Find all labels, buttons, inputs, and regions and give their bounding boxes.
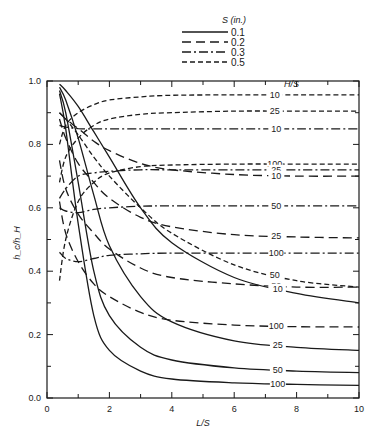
y-tick-label: 0.2 <box>28 330 41 340</box>
y-tick-label: 0.4 <box>28 266 41 276</box>
chart: S (in.)0.10.20.30.5 10255010010255010010… <box>0 0 379 436</box>
curve-label-HS10: 10 <box>271 124 281 134</box>
curve-label-HS50: 50 <box>273 365 283 375</box>
legend: S (in.)0.10.20.30.5 <box>182 15 246 68</box>
curve-S0.2-HS25 <box>60 119 360 238</box>
y-tick-label: 0.0 <box>28 393 41 403</box>
curve-S0.5-HS50 <box>60 113 360 287</box>
curve-label-HS50: 50 <box>270 270 280 280</box>
plot-curves <box>60 84 360 385</box>
curve-S0.2-HS100 <box>60 202 360 328</box>
x-tick-label: 8 <box>294 404 299 414</box>
y-tick-label: 0.6 <box>28 203 41 213</box>
y-tick-label: 1.0 <box>28 76 41 86</box>
curve-label-HS50: 50 <box>271 201 281 211</box>
curve-S0.5-HS100 <box>60 164 360 281</box>
curve-label-HS25: 25 <box>271 231 281 241</box>
curve-S0.3-HS50 <box>60 206 360 213</box>
curve-S0.5-HS10 <box>60 95 360 144</box>
curve-S0.3-HS10 <box>60 125 360 128</box>
y-tick-label: 0.8 <box>28 139 41 149</box>
curve-S0.1-HS25 <box>60 87 360 350</box>
legend-title: S (in.) <box>222 15 246 25</box>
x-tick-label: 6 <box>232 404 237 414</box>
x-tick-label: 0 <box>44 404 49 414</box>
axes: 02468100.00.20.40.60.81.0L/Sh_c/h_HH/S <box>12 76 364 428</box>
curve-label-HS25: 25 <box>270 106 280 116</box>
curve-S0.2-HS50 <box>60 160 360 287</box>
y-axis-title: h_c/h_H <box>12 226 22 260</box>
curve-label-HS100: 100 <box>270 379 285 389</box>
curve-label-HS100: 100 <box>269 248 284 258</box>
curve-label-HS10: 10 <box>273 284 283 294</box>
legend-label: 0.5 <box>231 57 245 68</box>
x-tick-label: 10 <box>354 404 364 414</box>
x-tick-label: 2 <box>107 404 112 414</box>
curve-label-HS10: 10 <box>271 171 281 181</box>
curve-S0.2-HS10 <box>60 113 360 177</box>
curve-labels: 102550100102550100102550100102550100 <box>267 90 286 389</box>
x-axis-title: L/S <box>196 418 210 428</box>
curve-S0.3-HS100 <box>60 252 360 262</box>
curve-S0.1-HS100 <box>60 94 360 386</box>
curve-label-HS100: 100 <box>269 321 284 331</box>
x-tick-label: 4 <box>169 404 174 414</box>
curve-family-label: H/S <box>284 79 299 89</box>
curve-label-HS10: 10 <box>270 90 280 100</box>
curve-label-HS25: 25 <box>273 340 283 350</box>
